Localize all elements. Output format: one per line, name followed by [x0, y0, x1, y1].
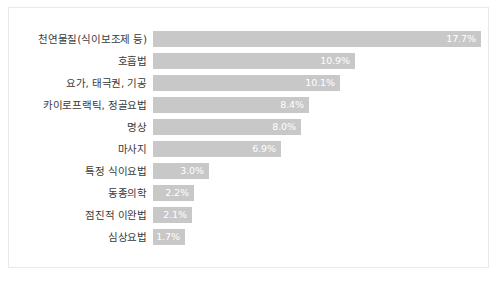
- bar-fill: 8.4%: [153, 97, 309, 113]
- bar-track: 10.1%: [153, 75, 484, 91]
- bar-value-label: 1.7%: [156, 229, 180, 245]
- bar-row: 동종의학2.2%: [9, 182, 488, 204]
- bar-track: 2.1%: [153, 207, 484, 223]
- bar-fill: 2.1%: [153, 207, 192, 223]
- bar-category-label: 카이로프랙틱, 정골요법: [9, 94, 147, 116]
- bar-category-label: 호흡법: [9, 50, 147, 72]
- bar-value-label: 2.1%: [163, 207, 187, 223]
- bar-track: 10.9%: [153, 53, 484, 69]
- bar-track: 17.7%: [153, 31, 484, 47]
- bar-track: 8.0%: [153, 119, 484, 135]
- bar-fill: 10.1%: [153, 75, 340, 91]
- bar-category-label: 명상: [9, 116, 147, 138]
- horizontal-bar-chart: 천연물질(식이보조제 등)17.7%호흡법10.9%요가, 태극권, 기공10.…: [9, 8, 488, 267]
- bar-value-label: 6.9%: [252, 141, 276, 157]
- bar-track: 6.9%: [153, 141, 484, 157]
- bar-fill: 2.2%: [153, 185, 194, 201]
- bar-category-label: 동종의학: [9, 182, 147, 204]
- bar-value-label: 8.0%: [272, 119, 296, 135]
- chart-card: 천연물질(식이보조제 등)17.7%호흡법10.9%요가, 태극권, 기공10.…: [8, 7, 489, 268]
- bar-category-label: 천연물질(식이보조제 등): [9, 28, 147, 50]
- bar-row: 점진적 이완법2.1%: [9, 204, 488, 226]
- bar-row: 특정 식이요법3.0%: [9, 160, 488, 182]
- bar-category-label: 특정 식이요법: [9, 160, 147, 182]
- bar-value-label: 8.4%: [280, 97, 304, 113]
- bar-fill: 6.9%: [153, 141, 281, 157]
- bar-value-label: 10.9%: [320, 53, 350, 69]
- bar-row: 명상8.0%: [9, 116, 488, 138]
- bar-value-label: 17.7%: [446, 31, 476, 47]
- bar-category-label: 점진적 이완법: [9, 204, 147, 226]
- bar-value-label: 10.1%: [305, 75, 335, 91]
- bar-row: 천연물질(식이보조제 등)17.7%: [9, 28, 488, 50]
- bar-track: 8.4%: [153, 97, 484, 113]
- bar-row: 호흡법10.9%: [9, 50, 488, 72]
- bar-fill: 17.7%: [153, 31, 481, 47]
- bar-row: 마사지6.9%: [9, 138, 488, 160]
- bar-category-label: 마사지: [9, 138, 147, 160]
- bar-fill: 8.0%: [153, 119, 301, 135]
- bar-value-label: 2.2%: [165, 185, 189, 201]
- bar-track: 3.0%: [153, 163, 484, 179]
- bar-track: 1.7%: [153, 229, 484, 245]
- bar-category-label: 요가, 태극권, 기공: [9, 72, 147, 94]
- bar-track: 2.2%: [153, 185, 484, 201]
- bar-row: 심상요법1.7%: [9, 226, 488, 248]
- bar-fill: 10.9%: [153, 53, 355, 69]
- bar-row: 카이로프랙틱, 정골요법8.4%: [9, 94, 488, 116]
- bar-fill: 1.7%: [153, 229, 185, 245]
- bar-category-label: 심상요법: [9, 226, 147, 248]
- bar-fill: 3.0%: [153, 163, 209, 179]
- bar-value-label: 3.0%: [180, 163, 204, 179]
- bar-row: 요가, 태극권, 기공10.1%: [9, 72, 488, 94]
